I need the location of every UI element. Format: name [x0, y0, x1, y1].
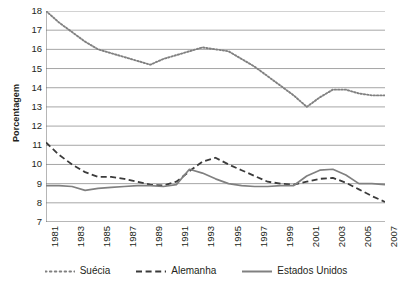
series-line-1: [46, 11, 385, 107]
series-line-2: [46, 142, 385, 201]
y-tick-label: 15: [16, 64, 42, 74]
y-tick-label: 18: [16, 6, 42, 16]
chart-legend: SuéciaAlemanhaEstados Unidos: [0, 262, 392, 280]
x-tick-label: 2005: [363, 226, 373, 247]
y-tick-label: 13: [16, 102, 42, 112]
x-tick-label: 1991: [180, 226, 190, 247]
x-tick-label: 1987: [128, 226, 138, 247]
plot-svg: [46, 11, 385, 222]
legend-item-3[interactable]: Estados Unidos: [242, 266, 347, 276]
x-tick-label: 1989: [154, 226, 164, 247]
y-tick-label: 8: [16, 198, 42, 208]
legend-label: Estados Unidos: [277, 266, 347, 276]
y-tick-label: 11: [16, 140, 42, 150]
legend-swatch-icon: [242, 267, 272, 276]
y-tick-label: 10: [16, 159, 42, 169]
legend-item-2[interactable]: Alemanha: [136, 266, 216, 276]
y-tick-label: 17: [16, 25, 42, 35]
y-tick-label: 9: [16, 179, 42, 189]
legend-swatch-icon: [136, 267, 166, 276]
x-tick-label: 1999: [285, 226, 295, 247]
y-tick-label: 7: [16, 217, 42, 227]
y-tick-label: 12: [16, 121, 42, 131]
x-tick-label: 2007: [389, 226, 399, 247]
plot-area: [46, 11, 385, 222]
y-tick-label: 16: [16, 44, 42, 54]
gridlines: [46, 11, 385, 203]
legend-item-1[interactable]: Suécia: [45, 266, 111, 276]
legend-swatch-icon: [45, 267, 75, 276]
legend-label: Suécia: [80, 266, 111, 276]
axis-lines: [46, 11, 385, 222]
y-tick-label: 14: [16, 83, 42, 93]
x-tick-label: 1985: [102, 226, 112, 247]
legend-label: Alemanha: [171, 266, 216, 276]
x-tick-label: 1993: [206, 226, 216, 247]
x-tick-label: 2001: [311, 226, 321, 247]
y-axis-tick-labels: 181716151413121110987: [10, 0, 42, 283]
x-tick-label: 1997: [259, 226, 269, 247]
x-tick-label: 1981: [50, 226, 60, 247]
series-line-3: [46, 169, 385, 190]
x-tick-label: 2003: [337, 226, 347, 247]
x-tick-label: 1983: [76, 226, 86, 247]
x-tick-label: 1995: [233, 226, 243, 247]
